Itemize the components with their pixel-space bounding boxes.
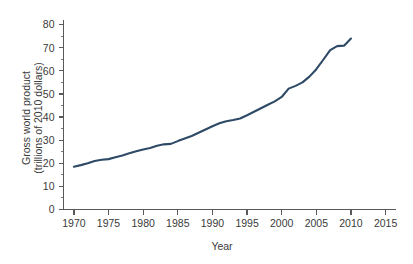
x-tick-label-2000: 2000 xyxy=(270,217,294,229)
x-tick-label-2015: 2015 xyxy=(374,217,398,229)
x-tick-label-1995: 1995 xyxy=(235,217,259,229)
x-tick-label-1990: 1990 xyxy=(201,217,225,229)
y-tick-label-10: 10 xyxy=(43,180,55,192)
y-tick-label-0: 0 xyxy=(49,203,55,215)
x-axis-title: Year xyxy=(211,240,233,252)
x-tick-label-1970: 1970 xyxy=(62,217,86,229)
y-tick-label-60: 60 xyxy=(43,65,55,77)
y-tick-label-70: 70 xyxy=(43,42,55,54)
y-tick-label-40: 40 xyxy=(43,111,55,123)
gross-world-product-line-chart: Gross world product (trillions of 2010 d… xyxy=(0,0,413,264)
y-tick-label-80: 80 xyxy=(43,18,55,30)
x-tick-label-1975: 1975 xyxy=(97,217,121,229)
x-tick-label-1985: 1985 xyxy=(166,217,190,229)
x-tick-label-1980: 1980 xyxy=(131,217,155,229)
y-tick-label-50: 50 xyxy=(43,88,55,100)
y-axis-tick-labels: 01020304050607080 xyxy=(43,18,55,215)
y-tick-label-30: 30 xyxy=(43,134,55,146)
x-tick-label-2010: 2010 xyxy=(339,217,363,229)
y-axis-title-line1: Gross world product xyxy=(20,71,32,165)
chart-figure: Gross world product (trillions of 2010 d… xyxy=(0,0,413,264)
y-tick-label-20: 20 xyxy=(43,157,55,169)
y-axis-title: Gross world product (trillions of 2010 d… xyxy=(20,62,44,173)
x-tick-label-2005: 2005 xyxy=(305,217,329,229)
